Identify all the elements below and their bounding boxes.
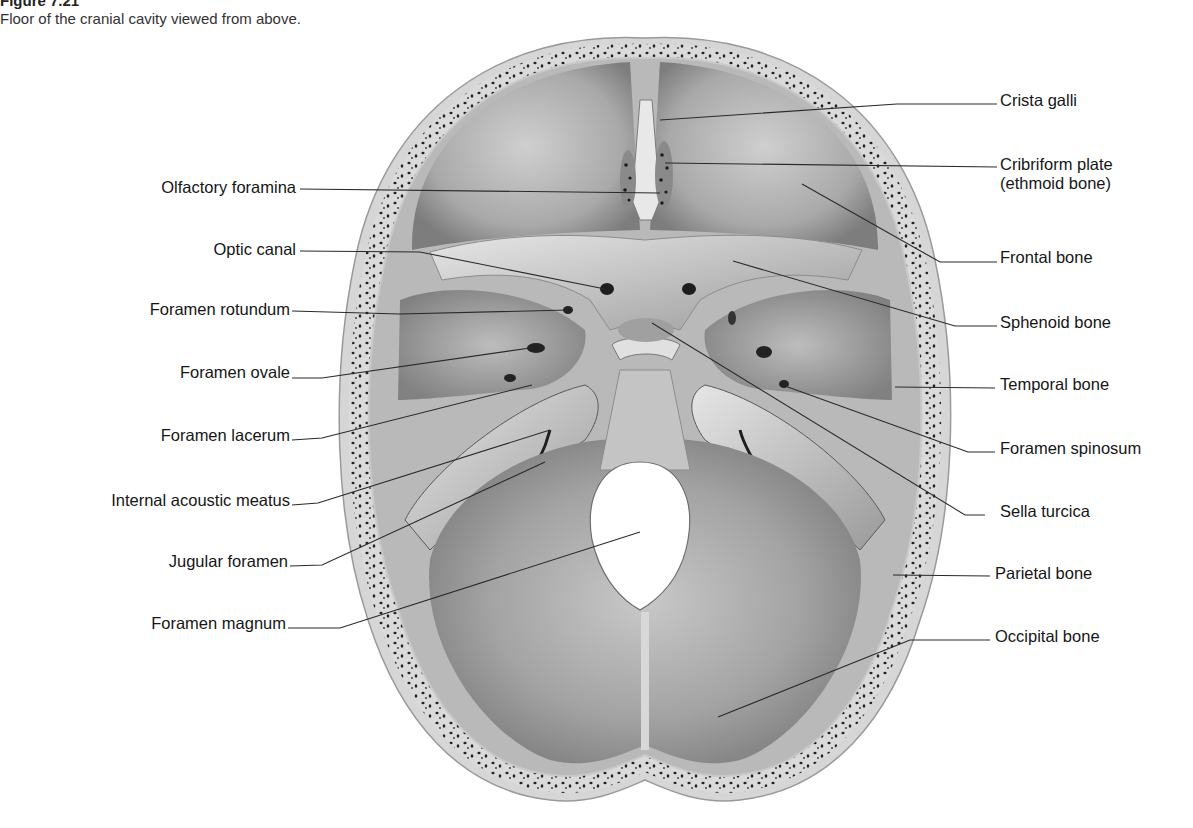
label-text-line2: (ethmoid bone) xyxy=(1000,174,1113,193)
label-text: Foramen ovale xyxy=(180,363,290,382)
label-foramen-magnum: Foramen magnum xyxy=(151,614,286,633)
label-text: Olfactory foramina xyxy=(161,178,296,197)
label-temporal-bone: Temporal bone xyxy=(1000,375,1109,394)
label-text: Foramen rotundum xyxy=(150,300,290,319)
label-text: Frontal bone xyxy=(1000,248,1093,267)
label-text: Jugular foramen xyxy=(169,552,288,571)
label-frontal-bone: Frontal bone xyxy=(1000,248,1093,267)
label-foramen-spinosum: Foramen spinosum xyxy=(1000,439,1141,458)
label-text: Foramen lacerum xyxy=(161,426,290,445)
label-optic-canal: Optic canal xyxy=(213,240,296,259)
label-parietal-bone: Parietal bone xyxy=(995,564,1092,583)
label-text: Temporal bone xyxy=(1000,375,1109,394)
label-text: Optic canal xyxy=(213,240,296,259)
label-internal-acoustic-meatus: Internal acoustic meatus xyxy=(111,491,290,510)
label-foramen-ovale: Foramen ovale xyxy=(180,363,290,382)
label-olfactory-foramina: Olfactory foramina xyxy=(161,178,296,197)
label-jugular-foramen: Jugular foramen xyxy=(169,552,288,571)
label-text: Crista galli xyxy=(1000,91,1077,110)
label-foramen-lacerum: Foramen lacerum xyxy=(161,426,290,445)
label-text: Internal acoustic meatus xyxy=(111,491,290,510)
label-crista-galli: Crista galli xyxy=(1000,91,1077,110)
label-sphenoid-bone: Sphenoid bone xyxy=(1000,313,1111,332)
label-text: Cribriform plate xyxy=(1000,155,1113,174)
label-occipital-bone: Occipital bone xyxy=(995,627,1100,646)
label-text: Parietal bone xyxy=(995,564,1092,583)
label-cribriform-plate: Cribriform plate(ethmoid bone) xyxy=(1000,155,1113,193)
label-sella-turcica: Sella turcica xyxy=(1000,502,1090,521)
label-text: Foramen magnum xyxy=(151,614,286,633)
label-text: Sphenoid bone xyxy=(1000,313,1111,332)
label-text: Foramen spinosum xyxy=(1000,439,1141,458)
cranial-floor-illustration xyxy=(0,0,1193,828)
label-text: Sella turcica xyxy=(1000,502,1090,521)
label-foramen-rotundum: Foramen rotundum xyxy=(150,300,290,319)
label-text: Occipital bone xyxy=(995,627,1100,646)
